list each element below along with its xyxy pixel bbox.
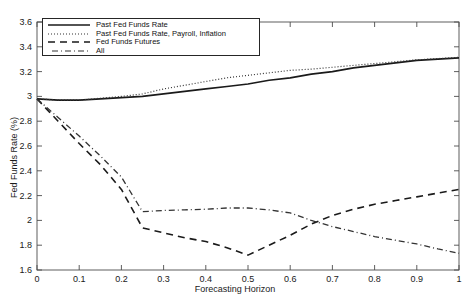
x-tick-label: 0 — [34, 274, 39, 284]
x-tick-label: 0.1 — [73, 274, 86, 284]
legend-swatch-dashdot — [46, 47, 92, 55]
plot-frame — [37, 22, 459, 270]
x-tick-label: 0.5 — [242, 274, 255, 284]
x-tick-label: 0.8 — [368, 274, 381, 284]
series-line-2 — [37, 99, 459, 255]
y-tick-label: 2.2 — [19, 191, 32, 201]
x-tick-label: 0.6 — [284, 274, 297, 284]
series-line-0 — [37, 58, 459, 100]
y-tick-label: 3 — [27, 91, 32, 101]
legend-item-3: All — [46, 47, 256, 56]
y-tick-label: 1.6 — [19, 265, 32, 275]
y-axis-label: Fed Funds Rate (%) — [9, 117, 19, 198]
y-tick-label: 2.8 — [19, 116, 32, 126]
x-axis-label: Forecasting Horizon — [0, 284, 470, 294]
chart-figure: 1.61.822.22.42.62.833.23.43.600.10.20.30… — [0, 0, 470, 296]
x-tick-label: 0.9 — [411, 274, 424, 284]
y-tick-label: 1.8 — [19, 240, 32, 250]
x-tick-label: 0.2 — [115, 274, 128, 284]
y-tick-label: 2 — [27, 215, 32, 225]
x-tick-label: 1 — [456, 274, 461, 284]
series-line-3 — [37, 99, 459, 253]
x-tick-label: 0.3 — [157, 274, 170, 284]
y-tick-label: 3.4 — [19, 42, 32, 52]
y-tick-label: 2.4 — [19, 166, 32, 176]
legend-swatch-dashed — [46, 38, 92, 46]
y-tick-label: 3.6 — [19, 17, 32, 27]
x-tick-label: 0.4 — [200, 274, 213, 284]
legend-swatch-dotted — [46, 30, 92, 38]
legend-label-2: Fed Funds Futures — [96, 38, 160, 46]
legend-swatch-solid — [46, 21, 92, 29]
chart-legend: Past Fed Funds Rate Past Fed Funds Rate,… — [42, 18, 260, 56]
x-tick-label: 0.7 — [326, 274, 339, 284]
legend-item-2: Fed Funds Futures — [46, 38, 256, 47]
y-tick-label: 2.6 — [19, 141, 32, 151]
y-tick-label: 3.2 — [19, 67, 32, 77]
legend-label-3: All — [96, 47, 104, 55]
